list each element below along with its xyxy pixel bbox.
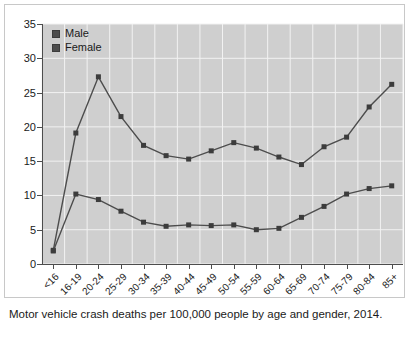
y-axis-tick-label: 10 bbox=[10, 190, 36, 201]
data-point-marker bbox=[118, 209, 123, 214]
data-point-marker bbox=[51, 248, 56, 253]
legend-label-male: Male bbox=[65, 28, 89, 39]
data-point-marker bbox=[141, 143, 146, 148]
data-point-marker bbox=[186, 222, 191, 227]
y-axis-spine bbox=[42, 24, 43, 265]
data-point-marker bbox=[367, 186, 372, 191]
data-series-layer bbox=[42, 24, 403, 264]
y-axis-tick-label: 0 bbox=[10, 259, 36, 270]
data-point-marker bbox=[276, 155, 281, 160]
data-point-marker bbox=[276, 226, 281, 231]
series-line-male bbox=[53, 77, 391, 250]
data-point-marker bbox=[344, 192, 349, 197]
data-point-marker bbox=[73, 131, 78, 136]
y-axis-tick-label: 5 bbox=[10, 224, 36, 235]
data-point-marker bbox=[209, 148, 214, 153]
y-axis-tick-label: 15 bbox=[10, 156, 36, 167]
data-point-marker bbox=[344, 135, 349, 140]
series-line-female bbox=[53, 186, 391, 251]
data-point-marker bbox=[254, 146, 259, 151]
data-point-marker bbox=[389, 183, 394, 188]
legend-swatch-icon bbox=[52, 30, 60, 38]
data-point-marker bbox=[231, 222, 236, 227]
data-point-marker bbox=[254, 227, 259, 232]
data-point-marker bbox=[118, 114, 123, 119]
data-point-marker bbox=[164, 153, 169, 158]
legend-item-male: Male bbox=[52, 28, 102, 39]
data-point-marker bbox=[164, 224, 169, 229]
legend-swatch-icon bbox=[52, 44, 60, 52]
figure: 05101520253035 Male Female <1616-1920-24… bbox=[0, 0, 409, 337]
data-point-marker bbox=[186, 157, 191, 162]
data-point-marker bbox=[96, 197, 101, 202]
y-axis-tick-label: 30 bbox=[10, 53, 36, 64]
legend-label-female: Female bbox=[65, 42, 102, 53]
x-axis-spine bbox=[42, 264, 403, 265]
data-point-marker bbox=[141, 220, 146, 225]
data-point-marker bbox=[322, 204, 327, 209]
legend-item-female: Female bbox=[52, 42, 102, 53]
y-axis-tick-label: 35 bbox=[10, 19, 36, 30]
data-point-marker bbox=[299, 215, 304, 220]
data-point-marker bbox=[322, 144, 327, 149]
data-point-marker bbox=[367, 104, 372, 109]
data-point-marker bbox=[209, 223, 214, 228]
data-point-marker bbox=[299, 162, 304, 167]
data-point-marker bbox=[96, 74, 101, 79]
plot-area bbox=[42, 24, 403, 264]
legend: Male Female bbox=[49, 25, 108, 56]
y-axis-tick-label: 20 bbox=[10, 121, 36, 132]
data-point-marker bbox=[73, 192, 78, 197]
y-axis: 05101520253035 bbox=[5, 5, 36, 299]
figure-caption: Motor vehicle crash deaths per 100,000 p… bbox=[9, 308, 401, 322]
data-point-marker bbox=[389, 82, 394, 87]
y-axis-tick-label: 25 bbox=[10, 87, 36, 98]
chart-frame: 05101520253035 Male Female <1616-1920-24… bbox=[4, 4, 405, 298]
data-point-marker bbox=[231, 140, 236, 145]
